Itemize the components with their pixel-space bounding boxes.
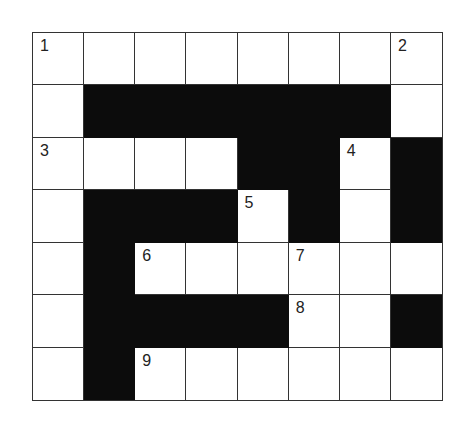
answer-cell[interactable]: 6 (135, 243, 186, 295)
answer-cell[interactable] (186, 348, 237, 400)
answer-cell[interactable] (340, 348, 391, 400)
block-cell (238, 295, 289, 347)
block-cell (289, 85, 340, 137)
answer-cell[interactable] (391, 85, 442, 137)
block-cell (186, 190, 237, 242)
answer-cell[interactable]: 1 (33, 33, 84, 85)
clue-number: 1 (40, 38, 49, 54)
block-cell (289, 190, 340, 242)
answer-cell[interactable] (33, 190, 84, 242)
clue-number: 9 (142, 353, 151, 369)
answer-cell[interactable] (289, 348, 340, 400)
answer-cell[interactable] (186, 138, 237, 190)
answer-cell[interactable] (340, 190, 391, 242)
clue-number: 5 (245, 195, 254, 211)
answer-cell[interactable] (33, 243, 84, 295)
clue-number: 8 (296, 300, 305, 316)
block-cell (391, 138, 442, 190)
block-cell (186, 295, 237, 347)
answer-cell[interactable] (238, 33, 289, 85)
answer-cell[interactable] (135, 138, 186, 190)
answer-cell[interactable] (238, 243, 289, 295)
answer-cell[interactable] (391, 348, 442, 400)
clue-number: 4 (347, 143, 356, 159)
block-cell (135, 295, 186, 347)
block-cell (84, 348, 135, 400)
answer-cell[interactable]: 7 (289, 243, 340, 295)
block-cell (84, 190, 135, 242)
block-cell (238, 85, 289, 137)
block-cell (340, 85, 391, 137)
answer-cell[interactable]: 8 (289, 295, 340, 347)
clue-number: 7 (296, 248, 305, 264)
answer-cell[interactable]: 5 (238, 190, 289, 242)
clue-number: 3 (40, 143, 49, 159)
block-cell (84, 295, 135, 347)
answer-cell[interactable] (33, 348, 84, 400)
crossword-grid: 123456789 (32, 32, 443, 401)
answer-cell[interactable] (186, 243, 237, 295)
answer-cell[interactable] (340, 33, 391, 85)
block-cell (84, 243, 135, 295)
answer-cell[interactable] (33, 295, 84, 347)
answer-cell[interactable] (391, 243, 442, 295)
answer-cell[interactable] (33, 85, 84, 137)
block-cell (238, 138, 289, 190)
answer-cell[interactable] (84, 33, 135, 85)
answer-cell[interactable] (340, 243, 391, 295)
block-cell (391, 190, 442, 242)
answer-cell[interactable] (135, 33, 186, 85)
answer-cell[interactable]: 2 (391, 33, 442, 85)
clue-number: 6 (142, 248, 151, 264)
block-cell (135, 190, 186, 242)
block-cell (289, 138, 340, 190)
block-cell (186, 85, 237, 137)
answer-cell[interactable] (84, 138, 135, 190)
block-cell (135, 85, 186, 137)
answer-cell[interactable] (289, 33, 340, 85)
answer-cell[interactable]: 3 (33, 138, 84, 190)
answer-cell[interactable] (340, 295, 391, 347)
answer-cell[interactable] (186, 33, 237, 85)
answer-cell[interactable]: 4 (340, 138, 391, 190)
block-cell (84, 85, 135, 137)
clue-number: 2 (398, 38, 407, 54)
block-cell (391, 295, 442, 347)
answer-cell[interactable]: 9 (135, 348, 186, 400)
answer-cell[interactable] (238, 348, 289, 400)
